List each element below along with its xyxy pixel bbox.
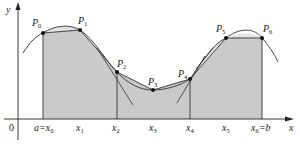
tick-label-x0: a=x0 — [34, 122, 53, 134]
point-label-p3: P3 — [147, 76, 157, 88]
tick-label-x5: x5 — [221, 122, 230, 134]
x-axis-label: x — [288, 122, 294, 133]
x-axis-arrow-icon — [285, 117, 294, 122]
point-label-p1: P1 — [77, 15, 87, 27]
point-label-p4: P4 — [177, 68, 188, 80]
tick-label-x6: x6=b — [250, 122, 270, 134]
point-label-p2: P2 — [116, 58, 126, 70]
y-axis-arrow-icon — [16, 2, 21, 10]
tick-label-x2: x2 — [111, 122, 120, 134]
y-axis-label: y — [5, 4, 11, 15]
point-label-p6: P6 — [262, 23, 273, 35]
point-label-p0: P0 — [31, 17, 41, 29]
tick-label-x1: x1 — [75, 122, 84, 134]
origin-label: 0 — [9, 122, 14, 133]
shaded-curve-fill — [43, 26, 262, 119]
point-label-p5: P5 — [215, 23, 225, 35]
tick-label-x4: x4 — [185, 122, 194, 134]
trapezoid-rule-diagram: y x 0 P0 P1 P2 P3 P4 P5 P6 a=x0 x1 x2 x3… — [0, 0, 300, 151]
figure-caption-faint — [130, 140, 170, 148]
tick-label-x3: x3 — [148, 122, 157, 134]
